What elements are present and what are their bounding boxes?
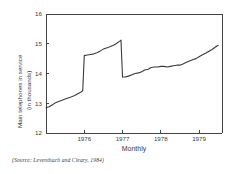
x-axis-title: Monthly [122,145,147,153]
y-axis-title: Main telephones in service (in thousands… [16,54,32,128]
y-tick-label: 13 [35,100,42,107]
x-tick-label: 1976 [77,135,91,142]
x-tick-label: 1979 [192,135,206,142]
data-series-line [46,40,218,108]
source-note: (Source: Leventhach and Cleary, 1984) [12,157,104,163]
chart-figure: 1213141516 1976197719781979 Main telepho… [0,0,236,174]
line-chart: 1213141516 1976197719781979 Main telepho… [0,0,236,174]
y-tick-label: 16 [35,10,42,17]
y-tick-label: 14 [35,70,42,77]
y-axis-title-line1: Main telephones in service [16,54,23,128]
x-tick-label: 1977 [116,135,130,142]
x-tick-label: 1978 [154,135,168,142]
y-tick-label: 15 [35,40,42,47]
x-tick-labels: 1976197719781979 [77,135,206,142]
y-tick-labels: 1213141516 [35,10,42,136]
y-tick-label: 12 [35,129,42,136]
y-axis-title-line2: (in thousands) [25,71,32,110]
